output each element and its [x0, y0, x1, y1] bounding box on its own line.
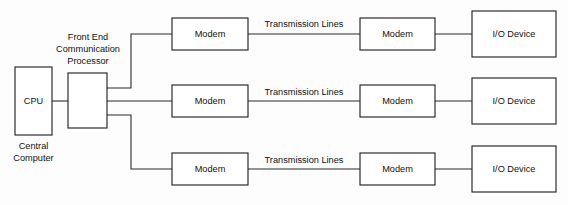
transmission-lines-label-2: Transmission Lines [265, 87, 344, 97]
link-fep-to-modem-near-3 [107, 115, 172, 169]
node-io-device-1-label: I/O Device [493, 29, 536, 39]
transmission-lines-label-3: Transmission Lines [265, 155, 344, 165]
cpu-caption-line-2: Computer [13, 153, 53, 163]
node-modem-near-3-label: Modem [195, 164, 226, 174]
transmission-lines-label-1: Transmission Lines [265, 19, 344, 29]
node-cpu-label: CPU [24, 96, 43, 106]
front-end-processor-caption-line-3: Processor [67, 56, 108, 66]
network-diagram: CPU Modem Modem Modem Modem Modem Modem … [0, 0, 568, 205]
node-modem-near-2-label: Modem [195, 96, 226, 106]
node-modem-near-1-label: Modem [195, 29, 226, 39]
cpu-caption-line-1: Central [19, 141, 49, 151]
node-modem-far-2-label: Modem [382, 96, 413, 106]
node-modem-far-1-label: Modem [382, 29, 413, 39]
node-io-device-3-label: I/O Device [493, 164, 536, 174]
node-front-end-processor[interactable] [68, 73, 107, 128]
diagram-canvas: CPU Modem Modem Modem Modem Modem Modem … [0, 0, 568, 205]
node-io-device-2-label: I/O Device [493, 96, 536, 106]
front-end-processor-caption-line-2: Communication [56, 44, 120, 54]
front-end-processor-caption-line-1: Front End [68, 32, 108, 42]
link-fep-to-modem-near-1 [107, 34, 172, 88]
node-modem-far-3-label: Modem [382, 164, 413, 174]
